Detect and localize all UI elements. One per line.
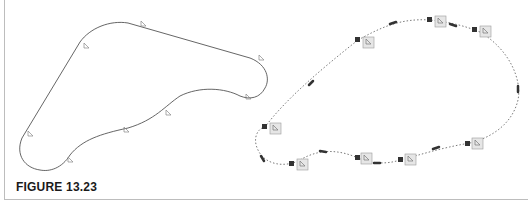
- cursor-icon: [141, 21, 146, 26]
- node-square: [289, 161, 294, 166]
- node-square: [472, 27, 477, 32]
- cursor-icon: [84, 43, 89, 48]
- cursor-icon: [259, 55, 264, 60]
- node-square: [355, 155, 360, 160]
- node-square: [398, 157, 403, 162]
- node-square: [355, 37, 360, 42]
- left-curve: [20, 22, 268, 170]
- cursor-icon: [68, 157, 73, 162]
- boxed-cursor-markers: [270, 16, 491, 170]
- cursor-icon: [28, 131, 33, 136]
- node-square: [465, 141, 470, 146]
- node-square: [427, 17, 432, 22]
- node-square: [262, 124, 267, 129]
- figure-caption: FIGURE 13.23: [16, 180, 97, 194]
- cursor-icon: [166, 110, 171, 115]
